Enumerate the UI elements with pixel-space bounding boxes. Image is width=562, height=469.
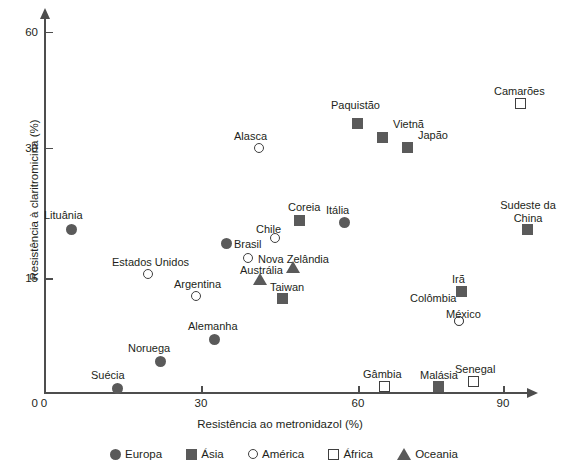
legend-marker-icon	[110, 449, 121, 460]
data-point-label: Itália	[326, 204, 349, 217]
data-point-label: Suécia	[91, 369, 125, 382]
data-point-marker	[339, 217, 350, 228]
legend-label: Europa	[125, 448, 162, 460]
x-tick-mark	[358, 386, 360, 393]
data-point-label: Taiwan	[270, 281, 304, 294]
x-tick-label: 90	[486, 397, 520, 409]
legend-marker-icon	[397, 448, 411, 460]
legend-item-europa: Europa	[110, 448, 162, 460]
data-point-label: Alemanha	[188, 320, 238, 333]
data-point-marker	[456, 286, 467, 297]
data-point-marker	[522, 224, 533, 235]
data-point-label: Alasca	[234, 130, 267, 143]
y-tick-mark	[46, 32, 53, 34]
data-point-marker	[112, 383, 123, 394]
data-point-label: Colômbia	[410, 292, 456, 305]
x-tick-mark	[503, 386, 505, 393]
data-point-label: México	[446, 308, 481, 321]
y-axis-line	[44, 18, 46, 394]
x-tick-mark	[201, 386, 203, 393]
data-point-marker	[155, 356, 166, 367]
data-point-marker	[352, 118, 363, 129]
data-point-label: Irã	[452, 273, 465, 286]
legend-marker-icon	[328, 449, 339, 460]
data-point-marker	[254, 143, 264, 153]
x-tick-label: 60	[341, 397, 375, 409]
legend-item-áfrica: África	[328, 448, 372, 460]
data-point-label: Brasil	[234, 238, 262, 251]
legend-label: América	[262, 448, 304, 460]
data-point-label: Chile	[256, 223, 281, 236]
data-point-label: Lituânia	[44, 209, 83, 222]
data-point-marker	[379, 381, 390, 392]
data-point-label: Sudeste da China	[496, 199, 560, 224]
data-point-marker	[433, 381, 444, 392]
data-point-label: Gâmbia	[363, 368, 402, 381]
data-point-marker	[277, 293, 288, 304]
data-point-label: Coreia	[288, 201, 320, 214]
legend: EuropaÁsiaAméricaÁfricaOceania	[110, 444, 458, 464]
data-point-marker	[243, 253, 253, 263]
legend-label: Oceania	[415, 448, 458, 460]
y-axis-title: Resistência à claritromicina (%)	[28, 80, 40, 320]
data-point-marker	[191, 291, 201, 301]
x-axis-title: Resistência ao metronidazol (%)	[150, 418, 410, 430]
data-point-label: Camarões	[494, 85, 545, 98]
y-tick-mark	[46, 278, 53, 280]
data-point-marker	[143, 269, 153, 279]
data-point-label: Estados Unidos	[112, 256, 189, 269]
x-tick-label: 0	[27, 397, 61, 409]
data-point-label: Austrália	[240, 264, 283, 277]
data-point-marker	[66, 224, 77, 235]
data-point-marker	[286, 261, 300, 273]
legend-marker-icon	[248, 449, 258, 459]
legend-label: Ásia	[201, 448, 223, 460]
y-tick-mark	[46, 148, 53, 150]
legend-marker-icon	[186, 449, 197, 460]
y-axis-arrow-icon	[40, 8, 50, 19]
data-point-marker	[402, 142, 413, 153]
legend-item-ásia: Ásia	[186, 448, 223, 460]
data-point-marker	[515, 98, 526, 109]
legend-item-oceania: Oceania	[397, 448, 458, 460]
data-point-label: Senegal	[455, 363, 495, 376]
x-tick-label: 30	[184, 397, 218, 409]
legend-item-américa: América	[248, 448, 304, 460]
data-point-label: Japão	[418, 129, 448, 142]
data-point-marker	[221, 238, 232, 249]
scatter-plot-figure: 60301500306090 Resistência à claritromic…	[0, 0, 562, 469]
data-point-label: Paquistão	[331, 99, 380, 112]
data-point-label: Malásia	[420, 369, 458, 382]
y-tick-label: 60	[10, 26, 38, 38]
data-point-marker	[377, 132, 388, 143]
data-point-label: Noruega	[128, 342, 170, 355]
data-point-marker	[468, 376, 479, 387]
data-point-marker	[209, 334, 220, 345]
legend-label: África	[343, 448, 372, 460]
x-axis-arrow-icon	[527, 388, 538, 398]
data-point-marker	[294, 215, 305, 226]
data-point-label: Argentina	[174, 278, 221, 291]
